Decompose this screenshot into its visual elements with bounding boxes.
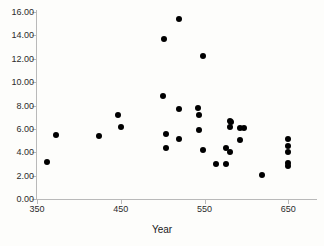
x-axis-tick-label: 350 — [22, 205, 52, 214]
x-axis-tick-label: 550 — [190, 205, 220, 214]
x-axis-tick-label: 650 — [273, 205, 303, 214]
data-point — [227, 124, 233, 130]
x-axis-line — [36, 199, 317, 200]
y-axis-tick-label: 2.00 — [0, 172, 34, 181]
data-point — [237, 137, 243, 143]
data-point — [160, 93, 166, 99]
data-point — [118, 124, 124, 130]
data-point — [200, 147, 206, 153]
y-axis-tick-label: 0.00 — [0, 195, 34, 204]
x-axis-title: Year — [0, 224, 324, 235]
y-axis-tick-label: 16.00 — [0, 8, 34, 17]
data-point — [227, 149, 233, 155]
data-point — [200, 53, 206, 59]
scatter-plot-figure: 0.002.004.006.008.0010.0012.0014.0016.00… — [0, 0, 324, 246]
data-point — [176, 16, 182, 22]
data-point — [53, 132, 59, 138]
y-axis-tick-label: 8.00 — [0, 102, 34, 111]
y-axis-tick-label: 12.00 — [0, 55, 34, 64]
data-point — [241, 125, 247, 131]
data-point — [161, 36, 167, 42]
data-point — [44, 159, 50, 165]
y-axis-tick-label: 10.00 — [0, 78, 34, 87]
y-axis-tick-label: 6.00 — [0, 125, 34, 134]
x-axis-tick-label: 450 — [106, 205, 136, 214]
data-point — [196, 127, 202, 133]
plot-data-area — [37, 8, 316, 199]
y-axis-tick-label: 4.00 — [0, 148, 34, 157]
data-point — [163, 145, 169, 151]
data-point — [163, 131, 169, 137]
y-axis-tick-label: 14.00 — [0, 31, 34, 40]
